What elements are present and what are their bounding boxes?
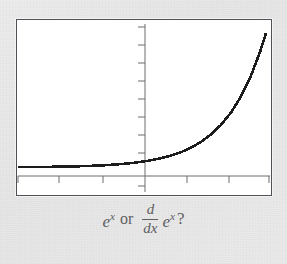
exponential-function-figure: exor d dx ex? [0, 0, 287, 264]
derivative-numerator: d [141, 202, 159, 219]
exponential-curve [18, 33, 266, 167]
caption-expression-exp-x-2: ex [162, 211, 175, 230]
figure-caption: exor d dx ex? [0, 203, 287, 238]
caption-e-base: e [102, 212, 110, 231]
caption-e-base-2: e [162, 212, 170, 231]
derivative-denominator: dx [141, 220, 159, 237]
caption-derivative-operator: d dx [141, 202, 159, 237]
x-axis-ticks [18, 176, 269, 183]
caption-conjunction: or [115, 210, 138, 227]
caption-question-mark: ? [175, 209, 185, 228]
plot-frame [16, 19, 272, 196]
plot-canvas [17, 20, 271, 195]
caption-expression-exp-x: ex [102, 211, 115, 230]
